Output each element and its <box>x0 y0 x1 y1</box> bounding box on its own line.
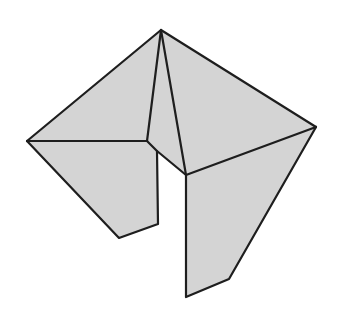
folded-shape-diagram <box>0 0 338 314</box>
bottom-left-face <box>27 141 158 238</box>
diagram-canvas <box>0 0 338 314</box>
